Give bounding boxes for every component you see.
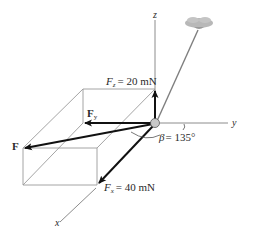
resultant-label: F	[12, 140, 19, 152]
fx-vector	[99, 126, 153, 183]
beta-label: β= 135°	[158, 131, 195, 143]
z-axis-label: z	[152, 9, 157, 20]
support-cord	[157, 30, 198, 121]
y-axis-label: y	[231, 117, 237, 128]
fy-label: Fy	[87, 107, 98, 121]
beta-leader	[183, 124, 185, 130]
fz-label: Fz= 20 mN	[105, 75, 157, 89]
ceiling-support-icon	[185, 17, 213, 29]
x-axis-label: x	[54, 217, 60, 228]
force-diagram: z y x Fz= 20 mN Fy F β= 135° Fx= 40 mN	[0, 0, 253, 249]
x-axis	[60, 188, 96, 222]
fx-label: Fx= 40 mN	[103, 181, 155, 195]
origin-joint	[151, 119, 160, 128]
